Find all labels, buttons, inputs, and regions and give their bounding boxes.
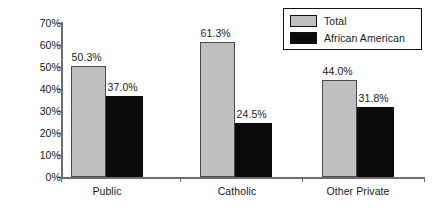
bar-catholic-african-american — [235, 123, 272, 177]
legend-swatch-total-icon — [290, 15, 317, 27]
bar-other-private-total — [322, 80, 357, 177]
legend-swatch-african-american-icon — [290, 32, 317, 44]
category-label-catholic: Catholic — [187, 186, 287, 197]
bar-chart: 0%10%20%30%40%50%60%70% 50.3%37.0%61.3%2… — [0, 0, 433, 211]
bar-value-label: 37.0% — [108, 82, 138, 93]
bar-other-private-african-american — [357, 107, 394, 177]
bar-value-label: 31.8% — [359, 93, 389, 104]
x-axis-tick-mark — [180, 177, 181, 182]
bar-value-label: 50.3% — [72, 52, 102, 63]
category-label-other-private: Other Private — [308, 186, 408, 197]
legend: Total African American — [283, 8, 422, 50]
y-axis-tick-label: 0% — [9, 172, 61, 183]
category-label-public: Public — [57, 186, 157, 197]
y-axis-tick-label: 10% — [9, 150, 61, 161]
bar-value-label: 61.3% — [201, 28, 231, 39]
y-axis-tick-label: 20% — [9, 128, 61, 139]
bar-value-label: 44.0% — [323, 66, 353, 77]
legend-label-total: Total — [324, 16, 347, 27]
legend-item-african-american: African American — [290, 31, 405, 45]
y-axis-tick-label: 40% — [9, 84, 61, 95]
y-axis-tick-label: 60% — [9, 40, 61, 51]
y-axis-tick-label: 30% — [9, 106, 61, 117]
y-axis-tick-label: 50% — [9, 62, 61, 73]
x-axis-line — [61, 177, 425, 179]
x-axis-tick-mark — [302, 177, 303, 182]
x-axis-tick-mark — [61, 177, 62, 182]
bar-public-total — [71, 66, 106, 177]
y-axis-tick-label: 70% — [9, 18, 61, 29]
bar-public-african-american — [106, 96, 143, 177]
bar-value-label: 24.5% — [237, 109, 267, 120]
bar-catholic-total — [200, 42, 235, 177]
legend-label-african-american: African American — [324, 33, 405, 44]
legend-item-total: Total — [290, 14, 347, 28]
x-axis-tick-mark — [424, 177, 425, 182]
